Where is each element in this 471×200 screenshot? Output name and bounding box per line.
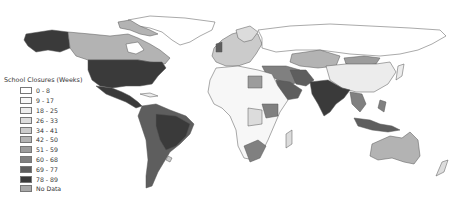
- legend-item: 42 - 50: [4, 135, 94, 145]
- legend-item: 51 - 59: [4, 145, 94, 155]
- legend-swatch: [20, 117, 32, 124]
- legend-label: 0 - 8: [36, 87, 50, 94]
- legend-swatch: [20, 166, 32, 173]
- legend-label: 26 - 33: [36, 117, 58, 124]
- region-mexico: [96, 86, 142, 108]
- legend-title: School Closures (Weeks): [4, 76, 94, 84]
- region-japan: [396, 64, 404, 80]
- legend-label: 18 - 25: [36, 107, 58, 114]
- legend-swatch: [20, 107, 32, 114]
- legend-swatch: [20, 87, 32, 94]
- region-uk: [216, 42, 222, 52]
- legend-label: 69 - 77: [36, 166, 58, 173]
- legend-item: No Data: [4, 184, 94, 194]
- region-alaska: [24, 30, 70, 52]
- legend-item: 9 - 17: [4, 96, 94, 106]
- region-madagascar: [286, 130, 292, 148]
- legend-item: 78 - 89: [4, 174, 94, 184]
- legend-swatch: [20, 97, 32, 104]
- legend-swatch: [20, 156, 32, 163]
- legend-label: 34 - 41: [36, 127, 58, 134]
- region-caribbean: [140, 93, 158, 97]
- legend-swatch: [20, 185, 32, 192]
- legend-label: 9 - 17: [36, 97, 54, 104]
- region-united-states: [88, 60, 166, 88]
- region-new-zealand: [436, 160, 448, 176]
- region-canada: [68, 32, 170, 64]
- region-indonesia: [354, 118, 400, 132]
- legend-swatch: [20, 127, 32, 134]
- region-australia: [370, 132, 420, 164]
- legend-item: 60 - 68: [4, 155, 94, 165]
- legend-swatch: [20, 176, 32, 183]
- legend-item: 18 - 25: [4, 106, 94, 116]
- region-philippines: [378, 100, 386, 112]
- legend-label: 51 - 59: [36, 146, 58, 153]
- legend-label: 42 - 50: [36, 136, 58, 143]
- map-legend: School Closures (Weeks) 0 - 89 - 1718 - …: [4, 76, 94, 194]
- legend-label: 78 - 89: [36, 176, 58, 183]
- region-southeast-asia: [350, 92, 366, 112]
- legend-swatch: [20, 136, 32, 143]
- region-russia: [258, 24, 446, 56]
- legend-label: 60 - 68: [36, 156, 58, 163]
- legend-item: 0 - 8: [4, 86, 94, 96]
- region-central-africa: [248, 108, 262, 126]
- legend-label: No Data: [36, 185, 61, 192]
- legend-swatch: [20, 146, 32, 153]
- legend-item: 26 - 33: [4, 115, 94, 125]
- legend-item: 69 - 77: [4, 164, 94, 174]
- region-libya: [248, 76, 262, 88]
- legend-item: 34 - 41: [4, 125, 94, 135]
